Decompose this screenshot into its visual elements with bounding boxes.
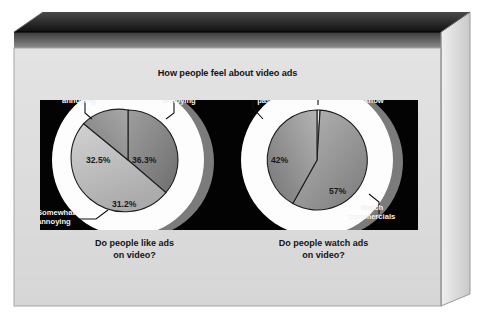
left-value-not-at-all: 32.5% (86, 155, 110, 165)
infographic-figure: How people feel about video ads (0, 0, 493, 324)
callout-very-annoying: Very annoying (162, 100, 196, 106)
callout-line-2: commercials (341, 212, 403, 221)
box-right-face (441, 12, 470, 306)
callout-line-2: past (232, 100, 298, 106)
right-value-watch: 57% (329, 186, 346, 196)
callout-line-2: annoying (40, 217, 75, 226)
left-value-somewhat: 31.2% (112, 199, 136, 209)
callout-watch-commercials: Watch commercials (341, 203, 403, 222)
left-chart-caption: Do people like ads on video? (40, 238, 229, 261)
callout-line-1: Watch (341, 203, 403, 212)
callout-line-2: annoying (62, 100, 96, 106)
callout-dont-know: 1% Don't know (349, 100, 399, 106)
callout-fast-forward-past: Fast-forward past (232, 100, 298, 106)
leader-line-dont-know (318, 100, 348, 105)
page-title: How people feel about video ads (14, 68, 441, 78)
right-chart-area: 42% 57% Fast-forward past 1% Don't know … (229, 100, 418, 230)
callout-line-1: Somewhat (40, 208, 75, 217)
caption-line-2: on video? (229, 250, 418, 262)
callout-line-2: annoying (162, 100, 196, 106)
callout-somewhat-annoying: Somewhat annoying (40, 208, 75, 227)
caption-line-1: Do people like ads (40, 238, 229, 250)
left-value-very: 36.3% (132, 155, 156, 165)
right-chart-caption: Do people watch ads on video? (229, 238, 418, 261)
right-value-fast-forward: 42% (271, 155, 288, 165)
caption-line-1: Do people watch ads (229, 238, 418, 250)
caption-line-2: on video? (40, 250, 229, 262)
callout-line-2: know (349, 100, 399, 106)
left-chart-area: 32.5% 36.3% 31.2% Not at all annoying Ve… (40, 100, 229, 230)
front-face-content: How people feel about video ads (14, 32, 441, 306)
callout-not-at-all-annoying: Not at all annoying (62, 100, 96, 106)
leader-line-somewhat (79, 210, 108, 219)
charts-panel: 32.5% 36.3% 31.2% Not at all annoying Ve… (40, 100, 418, 230)
box-top-face (14, 12, 470, 32)
